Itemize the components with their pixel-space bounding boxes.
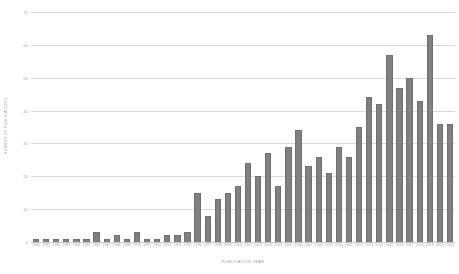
x-axis-tick-label: 2019 [426, 243, 434, 247]
x-axis-tick-label: 2000 [234, 243, 242, 247]
bar [275, 186, 281, 242]
bar [43, 239, 49, 242]
x-axis-tick-label: 1980 [32, 243, 40, 247]
x-axis-tick-label: 1982 [52, 243, 60, 247]
x-axis-tick-label: 1989 [123, 243, 131, 247]
bar [396, 88, 402, 242]
x-axis-tick-label: 1981 [42, 243, 50, 247]
bar [326, 173, 332, 242]
bar [305, 166, 311, 242]
y-axis-tick-labels: 010203040506070 [12, 12, 30, 242]
y-axis-tick-label: 30 [23, 141, 28, 146]
bar [255, 176, 261, 242]
x-axis-tick-labels: 1980198119821983198419851986198719881989… [31, 243, 455, 257]
x-axis-tick-label: 1988 [113, 243, 121, 247]
bar [93, 232, 99, 242]
x-axis-tick-label: 1994 [173, 243, 181, 247]
y-axis-tick-label: 40 [23, 108, 28, 113]
x-axis-tick-label: 1995 [183, 243, 191, 247]
x-axis-tick-label: 2010 [335, 243, 343, 247]
x-axis-tick-label: 1983 [62, 243, 70, 247]
bar [104, 239, 110, 242]
bar [205, 216, 211, 242]
bar [144, 239, 150, 242]
x-axis-tick-label: 2021 [446, 243, 454, 247]
bar [164, 235, 170, 242]
x-axis-tick-label: 2018 [416, 243, 424, 247]
bar [417, 101, 423, 242]
x-axis-tick-label: 1999 [224, 243, 232, 247]
x-axis-tick-label: 2014 [375, 243, 383, 247]
x-axis-tick-label: 1992 [153, 243, 161, 247]
x-axis-tick-label: 2003 [264, 243, 272, 247]
bar [33, 239, 39, 242]
y-axis-tick-label: 10 [23, 207, 28, 212]
x-axis-tick-label: 2006 [295, 243, 303, 247]
bar [245, 163, 251, 242]
x-axis-tick-label: 2016 [395, 243, 403, 247]
bar [114, 235, 120, 242]
bar [124, 239, 130, 242]
x-axis-tick-label: 2013 [365, 243, 373, 247]
x-axis-tick-label: 1987 [103, 243, 111, 247]
bar [184, 232, 190, 242]
bar [437, 124, 443, 242]
bar [154, 239, 160, 242]
bar [386, 55, 392, 242]
x-axis-tick-label: 1997 [204, 243, 212, 247]
x-axis-tick-label: 2020 [436, 243, 444, 247]
y-axis-tick-label: 20 [23, 174, 28, 179]
x-axis-tick-label: 1990 [133, 243, 141, 247]
y-axis-title-label: NUMBER OF PUBLICATIONS [4, 98, 8, 154]
bar [63, 239, 69, 242]
bar [346, 157, 352, 242]
bar [215, 199, 221, 242]
bar [376, 104, 382, 242]
x-axis-tick-label: 1996 [194, 243, 202, 247]
bar [427, 35, 433, 242]
bar [295, 130, 301, 242]
x-axis-tick-label: 2009 [325, 243, 333, 247]
bar [285, 147, 291, 242]
bar [356, 127, 362, 242]
x-axis-tick-label: 1984 [72, 243, 80, 247]
x-axis-tick-label: 1991 [143, 243, 151, 247]
bar [235, 186, 241, 242]
bar [366, 97, 372, 242]
y-axis-tick-label: 70 [23, 10, 28, 15]
bar [73, 239, 79, 242]
plot-area [31, 12, 455, 242]
bar [316, 157, 322, 242]
x-axis-tick-label: 2001 [244, 243, 252, 247]
bar [336, 147, 342, 242]
x-axis-tick-label: 2008 [315, 243, 323, 247]
bar [194, 193, 200, 242]
bar [134, 232, 140, 242]
bar [406, 78, 412, 242]
bar [174, 235, 180, 242]
bar [225, 193, 231, 242]
y-axis-tick-label: 50 [23, 75, 28, 80]
x-axis-tick-label: 2005 [284, 243, 292, 247]
x-axis-tick-label: 2011 [345, 243, 353, 247]
x-axis-tick-label: 2015 [385, 243, 393, 247]
bar [265, 153, 271, 242]
y-axis-title: NUMBER OF PUBLICATIONS [0, 0, 12, 274]
bar-series [31, 12, 455, 242]
bar [447, 124, 453, 242]
x-axis-tick-label: 1986 [93, 243, 101, 247]
x-axis-tick-label: 2004 [274, 243, 282, 247]
bar [53, 239, 59, 242]
x-axis-tick-label: 2017 [406, 243, 414, 247]
x-axis-tick-label: 2007 [305, 243, 313, 247]
x-axis-tick-label: 1993 [163, 243, 171, 247]
bar [83, 239, 89, 242]
x-axis-tick-label: 1985 [83, 243, 91, 247]
x-axis-tick-label: 2012 [355, 243, 363, 247]
x-axis-tick-label: 2002 [254, 243, 262, 247]
y-axis-tick-label: 60 [23, 42, 28, 47]
y-axis-tick-label: 0 [26, 240, 28, 245]
x-axis-tick-label: 1998 [214, 243, 222, 247]
bar-chart: NUMBER OF PUBLICATIONS 010203040506070 1… [0, 0, 459, 274]
x-axis-title: PUBLICATION YEAR [31, 260, 455, 264]
